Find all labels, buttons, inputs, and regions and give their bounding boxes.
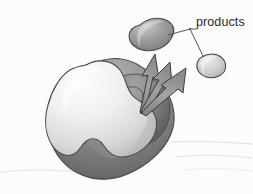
ground-line-upper-right bbox=[171, 141, 252, 144]
ground-line-left bbox=[0, 170, 78, 172]
ground-line-right-low bbox=[182, 169, 252, 171]
figure-canvas: products bbox=[0, 0, 253, 194]
ground-line-lower-right bbox=[176, 155, 252, 158]
arrow-origin-point bbox=[140, 111, 143, 114]
leader-line-junction bbox=[189, 28, 191, 30]
products-label: products bbox=[196, 15, 245, 29]
leader-line-to-small-product bbox=[190, 29, 203, 56]
